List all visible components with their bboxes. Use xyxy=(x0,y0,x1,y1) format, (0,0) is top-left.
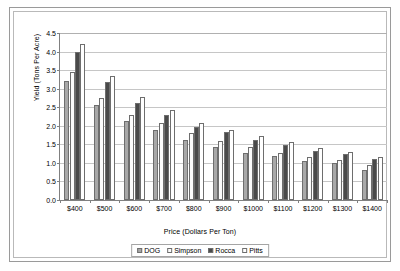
bar[interactable] xyxy=(278,153,283,201)
bar[interactable] xyxy=(80,44,85,200)
bar-group xyxy=(179,33,209,200)
bar[interactable] xyxy=(164,115,169,200)
y-axis-tick-label: 3.0 xyxy=(46,85,56,92)
x-axis-tick-mark xyxy=(268,200,269,203)
bar[interactable] xyxy=(153,130,158,200)
x-axis-tick-label: $700 xyxy=(156,205,172,212)
bar[interactable] xyxy=(362,170,367,200)
x-axis-tick-mark xyxy=(90,200,91,203)
bar[interactable] xyxy=(159,123,164,200)
bar[interactable] xyxy=(243,153,248,201)
bar[interactable] xyxy=(199,123,204,200)
bar-group xyxy=(209,33,239,200)
bar[interactable] xyxy=(194,127,199,200)
y-axis-tick-label: 0.0 xyxy=(46,197,56,204)
x-axis-tick-label: $1400 xyxy=(362,205,381,212)
bar[interactable] xyxy=(110,76,115,200)
bar[interactable] xyxy=(140,97,145,200)
legend-label: DOG xyxy=(144,247,160,254)
y-axis-tick-label: 2.5 xyxy=(46,104,56,111)
bar[interactable] xyxy=(224,132,229,200)
bar[interactable] xyxy=(283,145,288,200)
x-axis-tick-mark xyxy=(387,200,388,203)
x-axis-tick-mark xyxy=(298,200,299,203)
legend-item-pitts[interactable]: Pitts xyxy=(242,247,263,254)
bar[interactable] xyxy=(64,81,69,200)
bar[interactable] xyxy=(94,105,99,200)
x-axis-tick-label: $400 xyxy=(67,205,83,212)
x-axis-tick-label: $500 xyxy=(97,205,113,212)
bar[interactable] xyxy=(348,152,353,200)
bar[interactable] xyxy=(99,98,104,200)
bar[interactable] xyxy=(259,136,264,200)
y-axis-tick-label: 1.5 xyxy=(46,141,56,148)
bar[interactable] xyxy=(307,157,312,200)
y-axis-tick-label: 3.5 xyxy=(46,67,56,74)
chart-inner-frame: Yield (Tons Per Acre) Price (Dollars Per… xyxy=(13,11,387,258)
y-axis-tick-label: 4.5 xyxy=(46,30,56,37)
legend-label: Rocca xyxy=(215,247,235,254)
chart-legend: DOGSimpsonRoccaPitts xyxy=(131,244,269,257)
bar[interactable] xyxy=(135,103,140,200)
bar[interactable] xyxy=(183,140,188,200)
legend-label: Simpson xyxy=(174,247,201,254)
bar[interactable] xyxy=(302,161,307,200)
plot-area: 0.00.51.01.52.02.53.03.54.04.5 $400$500$… xyxy=(59,33,387,201)
bar[interactable] xyxy=(343,154,348,200)
bar[interactable] xyxy=(378,157,383,200)
bars-layer xyxy=(60,33,387,200)
legend-swatch-icon xyxy=(208,248,213,253)
bar[interactable] xyxy=(218,141,223,200)
bar[interactable] xyxy=(313,151,318,200)
y-axis-title: Yield (Tons Per Acre) xyxy=(33,0,40,138)
x-axis-tick-mark xyxy=(149,200,150,203)
x-axis-tick-mark xyxy=(179,200,180,203)
bar[interactable] xyxy=(170,110,175,200)
bar[interactable] xyxy=(248,147,253,200)
legend-label: Pitts xyxy=(249,247,263,254)
chart-container: Yield (Tons Per Acre) Price (Dollars Per… xyxy=(14,12,386,257)
y-axis-tick-label: 1.0 xyxy=(46,159,56,166)
bar[interactable] xyxy=(129,115,134,200)
legend-swatch-icon xyxy=(137,248,142,253)
x-axis-tick-label: $900 xyxy=(216,205,232,212)
bar[interactable] xyxy=(70,72,75,200)
bar[interactable] xyxy=(213,147,218,200)
x-axis-tick-mark xyxy=(60,200,61,203)
bar[interactable] xyxy=(105,82,110,200)
x-axis-tick-mark xyxy=(119,200,120,203)
y-axis-tick-label: 0.5 xyxy=(46,178,56,185)
legend-item-simpson[interactable]: Simpson xyxy=(167,247,201,254)
bar[interactable] xyxy=(229,130,234,200)
bar-group xyxy=(90,33,120,200)
y-axis-tick-label: 2.0 xyxy=(46,122,56,129)
x-axis-tick-mark xyxy=(238,200,239,203)
bar-group xyxy=(119,33,149,200)
bar[interactable] xyxy=(272,156,277,200)
bar[interactable] xyxy=(337,160,342,200)
bar[interactable] xyxy=(372,159,377,200)
bar[interactable] xyxy=(189,133,194,200)
legend-item-dog[interactable]: DOG xyxy=(137,247,160,254)
x-axis-tick-label: $1000 xyxy=(243,205,262,212)
x-axis-tick-label: $1300 xyxy=(333,205,352,212)
x-axis-tick-mark xyxy=(209,200,210,203)
bar-group xyxy=(328,33,358,200)
bar[interactable] xyxy=(124,121,129,200)
bar-group xyxy=(298,33,328,200)
x-axis-title: Price (Dollars Per Ton) xyxy=(14,228,386,235)
bar[interactable] xyxy=(367,165,372,200)
legend-swatch-icon xyxy=(167,248,172,253)
chart-outer-frame: Yield (Tons Per Acre) Price (Dollars Per… xyxy=(9,7,391,262)
bar[interactable] xyxy=(253,140,258,200)
legend-swatch-icon xyxy=(242,248,247,253)
bar-group xyxy=(238,33,268,200)
bar[interactable] xyxy=(332,163,337,200)
x-axis-tick-label: $600 xyxy=(127,205,143,212)
bar-group xyxy=(60,33,90,200)
legend-item-rocca[interactable]: Rocca xyxy=(208,247,235,254)
bar[interactable] xyxy=(318,148,323,200)
y-axis-tick-label: 4.0 xyxy=(46,48,56,55)
bar[interactable] xyxy=(289,142,294,200)
bar[interactable] xyxy=(75,52,80,200)
